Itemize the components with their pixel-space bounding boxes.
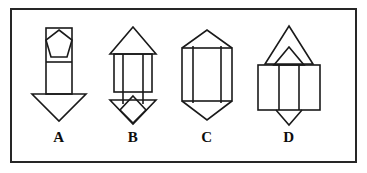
figure-label-b: B [102, 130, 164, 145]
figure-label-c: C [176, 130, 238, 145]
figure-d-drawing [250, 20, 328, 130]
figure-d-large-up-triangle [265, 26, 313, 64]
figure-b-rectangle [114, 54, 152, 92]
figure-b-drawing [102, 24, 164, 128]
figure-c-top-triangle [182, 30, 232, 48]
figure-c-bottom-triangle [182, 101, 232, 120]
figure-c-rectangle [182, 48, 232, 101]
figure-a-pentagon [46, 30, 72, 57]
figure-b-up-triangle [110, 27, 156, 54]
figure-c-drawing [176, 24, 238, 128]
figure-d-down-triangle [276, 110, 302, 125]
figure-label-a: A [28, 130, 90, 145]
figure-stage: A B [12, 10, 355, 161]
figure-panel-border: A B [10, 8, 357, 163]
figure-d-rectangle [258, 65, 320, 110]
figure-b-down-arrowhead [110, 100, 156, 124]
figure-label-d: D [250, 130, 328, 145]
figure-a-drawing [28, 24, 90, 128]
figure-a-down-arrowhead [32, 94, 86, 121]
figure-d-small-up-triangle [274, 47, 304, 65]
